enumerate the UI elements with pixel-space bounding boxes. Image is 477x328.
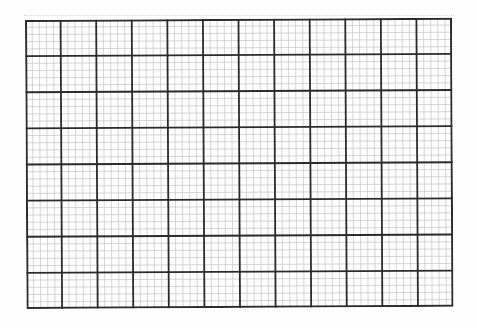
grid-lines [25, 18, 454, 309]
graph-paper-page [0, 0, 477, 328]
graph-paper-grid [25, 18, 454, 309]
scan-artifact-line [24, 15, 454, 17]
